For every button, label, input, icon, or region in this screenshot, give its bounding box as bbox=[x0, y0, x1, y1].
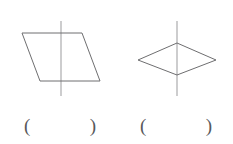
worksheet-page: ( ) ( ) bbox=[0, 0, 233, 144]
rhombus-shape bbox=[138, 43, 216, 75]
parallelogram-shape bbox=[22, 33, 100, 81]
answer-close-paren: ) bbox=[206, 116, 212, 135]
answer-row: ( ) ( ) bbox=[0, 106, 233, 144]
answer-blank-parallelogram[interactable] bbox=[30, 106, 89, 144]
figure-parallelogram-group bbox=[22, 21, 100, 96]
answer-group-parallelogram: ( ) bbox=[24, 106, 96, 144]
answer-close-paren: ) bbox=[90, 116, 96, 135]
answer-blank-rhombus[interactable] bbox=[146, 106, 205, 144]
figure-rhombus-group bbox=[138, 21, 216, 96]
answer-group-rhombus: ( ) bbox=[140, 106, 212, 144]
